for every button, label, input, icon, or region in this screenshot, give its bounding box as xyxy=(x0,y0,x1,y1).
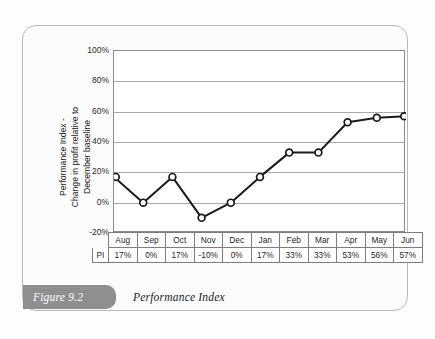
y-axis-ticks: 100%80%60%40%20%0%-20% xyxy=(62,50,109,232)
data-point-Jun[interactable] xyxy=(401,113,406,120)
table-header-may: May xyxy=(365,233,394,248)
table-value-jun: 57% xyxy=(394,248,423,263)
table-header-dec: Dec xyxy=(223,233,252,248)
table-value-jan: 17% xyxy=(251,248,280,263)
data-point-Jan[interactable] xyxy=(257,173,264,180)
data-point-Mar[interactable] xyxy=(315,149,322,156)
y-axis-title: Performance Index - Change in profit rel… xyxy=(24,78,58,238)
data-point-Oct[interactable] xyxy=(169,173,176,180)
table-value-feb: 33% xyxy=(280,248,309,263)
plot-area xyxy=(113,50,405,232)
data-table: AugSepOctNovDecJanFebMarAprMayJun PI 17%… xyxy=(92,232,423,263)
table-value-may: 56% xyxy=(365,248,394,263)
figure-caption: Performance Index xyxy=(133,285,225,309)
caption-bar: Figure 9.2 Performance Index xyxy=(23,285,408,309)
y-tick-label-0: 0% xyxy=(65,198,109,207)
y-tick-label-60: 60% xyxy=(65,107,109,116)
data-point-Nov[interactable] xyxy=(198,214,205,221)
table-header-oct: Oct xyxy=(166,233,195,248)
y-tick-label-20: 20% xyxy=(65,167,109,176)
data-line xyxy=(114,116,406,218)
data-point-Sep[interactable] xyxy=(140,199,147,206)
table-value-dec: 0% xyxy=(223,248,252,263)
table-header-feb: Feb xyxy=(280,233,309,248)
data-point-Dec[interactable] xyxy=(227,199,234,206)
figure-page: Performance Index - Change in profit rel… xyxy=(0,0,435,339)
data-point-May[interactable] xyxy=(373,114,380,121)
data-point-Feb[interactable] xyxy=(286,149,293,156)
data-point-Apr[interactable] xyxy=(344,119,351,126)
y-tick-label-40: 40% xyxy=(65,137,109,146)
table-header-aug: Aug xyxy=(109,233,138,248)
table-header-apr: Apr xyxy=(337,233,366,248)
table-header-jun: Jun xyxy=(394,233,423,248)
table-value-sep: 0% xyxy=(137,248,166,263)
table-value-mar: 33% xyxy=(308,248,337,263)
table-header-sep: Sep xyxy=(137,233,166,248)
y-tick-label-80: 80% xyxy=(65,76,109,85)
table-value-oct: 17% xyxy=(166,248,195,263)
data-point-Aug[interactable] xyxy=(114,173,119,180)
table-header-nov: Nov xyxy=(194,233,223,248)
table-value-nov: -10% xyxy=(194,248,223,263)
table-row-label: PI xyxy=(93,248,109,263)
table-corner-cell xyxy=(93,233,109,248)
table-row-headers: AugSepOctNovDecJanFebMarAprMayJun xyxy=(93,233,423,248)
y-tick-label-100: 100% xyxy=(65,46,109,55)
figure-number: Figure 9.2 xyxy=(23,285,116,309)
line-chart-svg xyxy=(114,51,406,233)
table-row-values: PI 17%0%17%-10%0%17%33%33%53%56%57% xyxy=(93,248,423,263)
table-value-aug: 17% xyxy=(109,248,138,263)
table-value-apr: 53% xyxy=(337,248,366,263)
table-header-mar: Mar xyxy=(308,233,337,248)
table-header-jan: Jan xyxy=(251,233,280,248)
